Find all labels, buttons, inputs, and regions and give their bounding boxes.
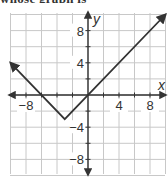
y-tick-label: −4: [69, 120, 84, 135]
axes: xy: [9, 11, 166, 175]
x-axis-label: x: [157, 77, 166, 93]
y-tick-label: 8: [77, 24, 84, 39]
x-tick-label: −8: [19, 98, 34, 113]
y-tick-label: −8: [69, 152, 84, 167]
y-axis-label: y: [92, 11, 101, 27]
y-tick-label: 4: [77, 56, 84, 71]
graph: xy −84884−4−8: [0, 0, 168, 186]
x-tick-label: 8: [146, 98, 153, 113]
x-tick-label: 4: [115, 98, 122, 113]
